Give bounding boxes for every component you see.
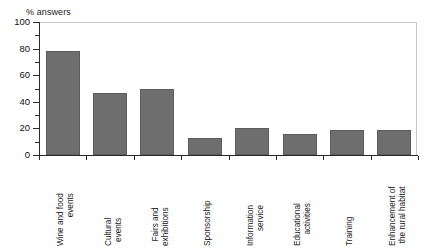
y-tick-label: 60	[0, 70, 30, 80]
x-tick-label: Educationalactivities	[293, 203, 312, 246]
x-tick	[323, 156, 324, 160]
x-tick-label: Sponsorship	[203, 200, 213, 246]
x-tick	[86, 156, 87, 160]
bar	[46, 51, 80, 155]
x-tick	[229, 156, 230, 160]
y-tick-label: 40	[0, 97, 30, 107]
x-tick	[134, 156, 135, 160]
x-tick	[39, 156, 40, 160]
bar	[235, 128, 269, 155]
bar	[188, 138, 222, 155]
x-tick-label: Training	[345, 217, 355, 246]
bars-group	[39, 22, 418, 155]
x-tick	[181, 156, 182, 160]
x-axis-labels: Wine and foodeventsCulturaleventsFairs a…	[39, 162, 418, 250]
x-tick	[371, 156, 372, 160]
x-tick-label: Wine and foodevents	[56, 193, 75, 246]
bar	[377, 130, 411, 155]
x-tick-label: Enhancement ofthe rural habitat	[388, 186, 407, 246]
bar	[140, 89, 174, 156]
bar	[93, 93, 127, 156]
bar-chart: % answers 020406080100 Wine and foodeven…	[0, 0, 430, 250]
y-tick-label: 0	[0, 150, 30, 160]
x-tick-label: Culturalevents	[104, 218, 123, 246]
y-tick-label: 80	[0, 44, 30, 54]
x-tick-label: Informationservice	[246, 205, 265, 246]
x-tick	[418, 156, 419, 160]
bar	[330, 130, 364, 155]
y-tick-label: 20	[0, 123, 30, 133]
x-tick-label: Fairs andexhibitions	[151, 207, 170, 246]
y-tick-label: 100	[0, 17, 30, 27]
y-axis-title: % answers	[26, 7, 71, 17]
x-tick	[276, 156, 277, 160]
bar	[283, 134, 317, 155]
